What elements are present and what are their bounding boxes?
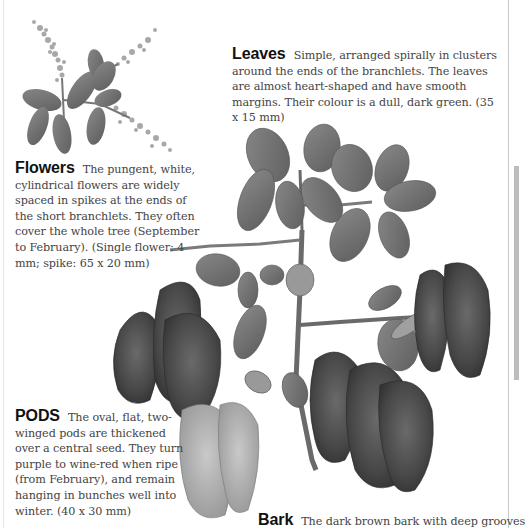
flower-spike-right [116,28,157,66]
pod-cluster-light [180,403,259,518]
heading-leaves: Leaves [232,45,286,62]
flower-spike-lower [105,99,172,152]
pod-cluster-center [310,352,433,492]
flower-sprig [20,20,172,155]
caption-bark: BarkThe dark brown bark with deep groove… [258,512,518,528]
caption-flowers: FlowersThe pungent, white, cylindrical f… [15,160,205,271]
caption-pods: PODSThe oval, flat, two-winged pods are … [15,408,190,519]
flower-sprig-leaves [20,48,124,155]
text-bark: The dark brown bark with deep grooves [301,515,525,528]
pod-cluster-right [414,263,490,378]
pod-cluster-left [113,282,220,421]
text-flowers: The pungent, white, cylindrical flowers … [15,163,199,270]
caption-leaves: LeavesSimple, arranged spirally in clust… [232,46,502,126]
flower-spike-left [32,20,66,82]
text-pods: The oval, flat, two-winged pods are thic… [15,411,183,518]
heading-bark: Bark [258,511,293,528]
heading-flowers: Flowers [15,159,75,176]
heading-pods: PODS [15,407,60,424]
